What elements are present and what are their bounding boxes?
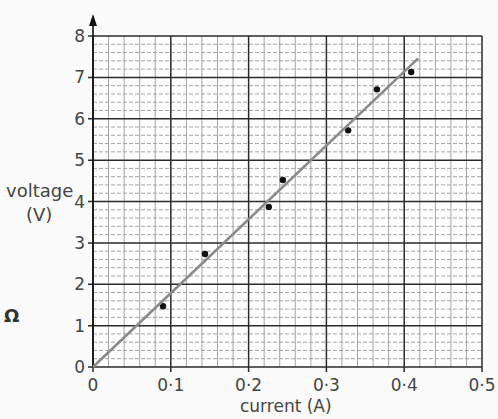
data-point xyxy=(202,251,208,257)
y-tick-label: 5 xyxy=(74,150,85,170)
y-tick-label: 1 xyxy=(74,316,85,336)
x-tick-label: 0·4 xyxy=(391,375,418,395)
x-tick-label: 0·5 xyxy=(468,375,495,395)
x-tick-label: 0 xyxy=(88,375,99,395)
x-tick-label: 0·1 xyxy=(157,375,184,395)
data-point xyxy=(280,177,286,183)
data-point xyxy=(408,69,414,75)
y-tick-label: 4 xyxy=(74,192,85,212)
x-axis-label: current (A) xyxy=(240,396,332,416)
y-tick-label: 2 xyxy=(74,274,85,294)
voltage-current-chart: 00·10·20·30·40·5012345678 xyxy=(0,0,498,419)
y-tick-label: 8 xyxy=(74,26,85,46)
y-axis-unit: (V) xyxy=(26,204,52,225)
ohm-symbol: Ω xyxy=(4,305,19,326)
y-tick-label: 0 xyxy=(74,357,85,377)
x-tick-label: 0·2 xyxy=(235,375,262,395)
data-point xyxy=(266,204,272,210)
y-axis-arrow-icon xyxy=(89,14,97,26)
y-tick-label: 3 xyxy=(74,233,85,253)
x-tick-label: 0·3 xyxy=(313,375,340,395)
y-tick-label: 7 xyxy=(74,67,85,87)
data-point xyxy=(374,86,380,92)
y-axis-label: voltage xyxy=(6,180,73,201)
y-tick-label: 6 xyxy=(74,109,85,129)
